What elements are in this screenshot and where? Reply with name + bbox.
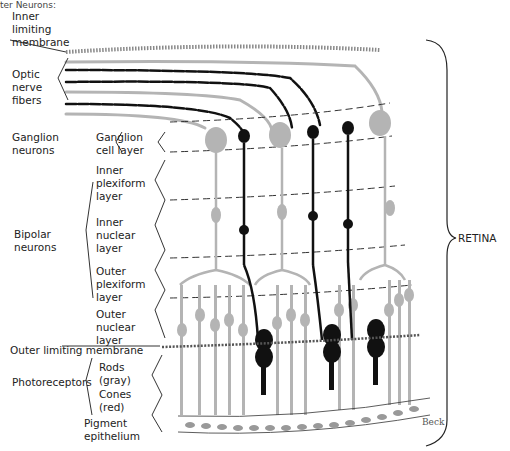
artist-signature: Beck: [422, 417, 444, 427]
label-optic-nerve-fibers: Optic nerve fibers: [12, 68, 42, 107]
label-rods: Rods (gray): [99, 361, 131, 387]
label-inner-nuclear-layer: Inner nuclear layer: [96, 216, 135, 255]
label-ganglion-neurons: Ganglion neurons: [12, 131, 59, 157]
label-outer-plexiform-layer: Outer plexiform layer: [96, 265, 145, 304]
ganglion-cells: [205, 110, 391, 153]
label-pigment-epithelium: Pigment epithelium: [84, 417, 140, 443]
label-retina: RETINA: [458, 232, 496, 245]
label-inner-limiting-membrane: Inner limiting membrane: [12, 10, 69, 49]
label-outer-nuclear-layer: Outer nuclear layer: [96, 308, 135, 347]
label-ganglion-cell-layer: Ganglion cell layer: [96, 131, 144, 157]
label-bipolar-neurons: Bipolar neurons: [14, 228, 56, 254]
retina-brace: [426, 40, 456, 446]
label-cones: Cones (red): [99, 388, 131, 414]
label-outer-limiting-membrane: Outer limiting membrane: [10, 344, 143, 357]
optic-nerve-fibers: [66, 62, 382, 139]
label-inner-plexiform-layer: Inner plexiform layer: [96, 164, 145, 203]
rod-cells: [177, 200, 414, 415]
label-photoreceptors: Photoreceptors: [12, 376, 92, 389]
inner-limiting-membrane: [66, 46, 380, 52]
